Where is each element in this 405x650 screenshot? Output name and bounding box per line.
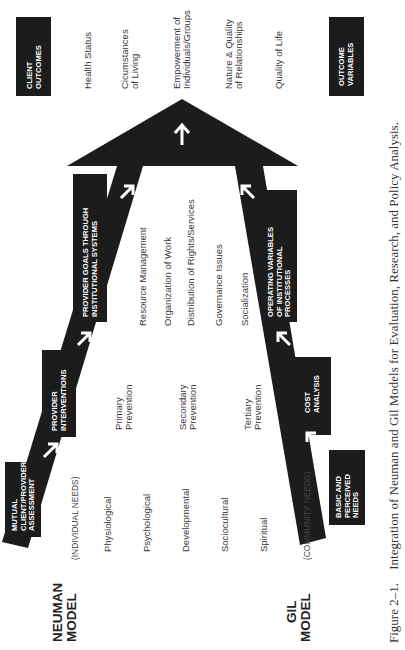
outcome-nature-quality-relationships: Nature & Quality of Relationships (223, 17, 244, 89)
variable-physiological: Physiological (102, 497, 113, 552)
process-distribution-rights-services: Distribution of Rights/Services (185, 199, 196, 326)
neuman-stage-provider-goals: PROVIDER GOALS THROUGH INSTITUTIONAL SYS… (81, 206, 99, 317)
process-socialization: Socialization (239, 273, 250, 326)
process-resource-management: Resource Management (137, 227, 148, 326)
variable-developmental: Developmental (180, 489, 191, 552)
outcome-empowerment: Empowerment of Individuals/Groups (171, 10, 192, 89)
outcome-circumstances-of-living: Cicumstances of Living (119, 27, 140, 89)
gil-model-label: GIL MODEL (284, 593, 313, 642)
outcome-health-status: Health Status (82, 32, 93, 89)
prevention-secondary: Secondary Prevention (177, 382, 198, 430)
variable-sociocultural: Sociocultural (219, 498, 230, 552)
diagram-canvas: CLIENT OUTCOMES OUTCOME VARIABLES Health… (0, 0, 405, 650)
process-governance-issues: Governance Issues (213, 244, 224, 326)
process-organization-of-work: Organization of Work (162, 237, 173, 326)
neuman-model-label: NEUMAN MODEL (50, 579, 79, 642)
outcome-quality-of-life: Quality of Life (273, 31, 284, 89)
figure-caption-text: Integration of Neuman and Gil Models for… (386, 122, 401, 570)
prevention-primary: Primary Prevention (113, 385, 134, 430)
figure-number: Figure 2–1. (386, 583, 401, 643)
variable-spiritual: Spiritual (258, 518, 269, 552)
outcome-variables-header: OUTCOME VARIABLES (337, 43, 355, 86)
prevention-tertiary: Tertiary Prevention (242, 385, 263, 430)
gil-needs-label: (COMMUNITY NEEDS) (302, 472, 312, 560)
variable-psychological: Psychological (141, 494, 152, 552)
neuman-needs-label: (INDIVIDUAL NEEDS) (70, 476, 80, 560)
figure-caption: Figure 2–1. Integration of Neuman and Gi… (386, 122, 401, 643)
